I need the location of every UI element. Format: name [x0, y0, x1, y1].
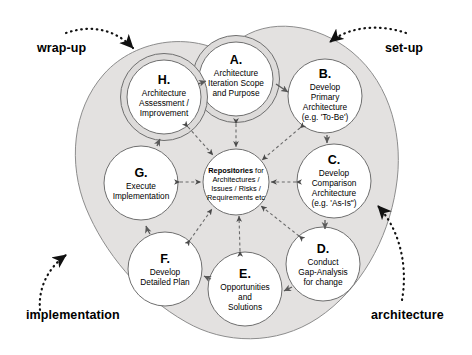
arrow-implementation-to-F — [40, 255, 66, 310]
hub-line-3: Issues / Risks / — [211, 184, 262, 193]
node-D-line-2: Gap-Analysis — [298, 267, 347, 277]
node-G-line-1: Execute — [126, 181, 156, 191]
node-B-line-1: Develop — [310, 82, 341, 92]
node-A-line-2: Iteration Scope — [208, 78, 264, 88]
node-D-line-3: for change — [303, 277, 343, 287]
node-B-letter: B. — [319, 67, 332, 81]
node-B-line-2: Primary — [311, 92, 340, 102]
node-D-line-1: Conduct — [308, 257, 340, 267]
node-B-line-3: Architecture — [303, 102, 348, 112]
hub-line-1-bold: Repositories — [208, 166, 253, 175]
svg-text:Repositories for: Repositories for — [208, 166, 264, 175]
external-label-set-up: set-up — [385, 41, 423, 55]
hub-line-2: Architectures / — [212, 175, 260, 184]
external-label-implementation: implementation — [26, 308, 120, 322]
node-H-line-2: Assessment / — [139, 98, 189, 108]
node-F-line-2: Detailed Plan — [140, 277, 190, 287]
node-A-letter: A. — [230, 53, 243, 67]
node-H-letter: H. — [158, 73, 171, 87]
node-A-line-3: and Purpose — [212, 88, 259, 98]
node-C-line-1: Develop — [319, 168, 350, 178]
node-H-line-1: Architecture — [142, 88, 187, 98]
node-E-line-2: and — [238, 292, 252, 302]
node-E-line-3: Solutions — [228, 302, 262, 312]
node-E-letter: E. — [239, 267, 251, 281]
node-F-letter: F. — [160, 252, 170, 266]
node-F-line-1: Develop — [150, 267, 181, 277]
node-B-line-4: (e.g. 'To-Be') — [302, 112, 349, 122]
hub-line-4: Requirements etc — [207, 193, 265, 202]
node-C-line-2: Comparison — [312, 178, 357, 188]
node-C-letter: C. — [328, 153, 341, 167]
hub-labels: Repositories for Architectures / Issues … — [207, 166, 265, 202]
node-H-line-3: Improvement — [140, 108, 189, 118]
node-G-line-2: Implementation — [113, 191, 170, 201]
architecture-cycle-diagram: A. Architecture Iteration Scope and Purp… — [0, 0, 472, 355]
node-C-line-3: Architecture — [312, 188, 357, 198]
node-A-line-1: Architecture — [214, 68, 259, 78]
node-C-line-4: (e.g. 'As-Is") — [311, 198, 356, 208]
arrow-setup-to-A — [330, 28, 406, 42]
node-G-letter: G. — [134, 166, 147, 180]
node-E-line-1: Opportunities — [220, 282, 269, 292]
external-label-architecture: architecture — [371, 308, 444, 322]
hub-line-1-suffix: for — [253, 166, 264, 175]
external-label-wrap-up: wrap-up — [37, 41, 86, 55]
node-D-letter: D. — [317, 242, 330, 256]
